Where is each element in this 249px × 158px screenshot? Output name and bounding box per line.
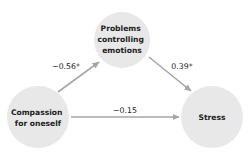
- mediation-diagram: Problems controlling emotions Compassion…: [0, 0, 249, 158]
- node-predictor: Compassion for oneself: [7, 86, 69, 148]
- node-predictor-circle: [7, 86, 69, 148]
- node-mediator-line-1: Problems: [101, 24, 142, 33]
- edge-label-predictor-outcome: −0.15: [113, 106, 137, 115]
- edge-label-mediator-outcome: 0.39*: [171, 62, 192, 71]
- edge-label-predictor-mediator: −0.56*: [52, 62, 80, 71]
- node-predictor-line-2: for oneself: [15, 119, 62, 128]
- node-mediator-line-2: controlling: [97, 35, 143, 44]
- node-mediator: Problems controlling emotions: [94, 12, 150, 68]
- node-mediator-line-3: emotions: [102, 46, 142, 55]
- node-outcome-line-1: Stress: [198, 113, 226, 122]
- node-outcome-label: Stress: [198, 113, 226, 122]
- node-outcome: Stress: [181, 86, 243, 148]
- node-mediator-label: Problems controlling emotions: [97, 24, 146, 55]
- node-predictor-line-1: Compassion: [11, 108, 63, 117]
